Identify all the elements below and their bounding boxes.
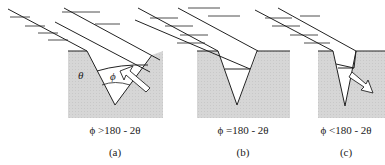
workpiece-b	[197, 51, 290, 118]
condition-b: ϕ =180 - 2θ	[217, 124, 268, 136]
condition-c: ϕ <180 - 2θ	[320, 124, 371, 136]
workpiece-c	[318, 51, 385, 118]
caption-b: (b)	[237, 146, 250, 159]
panel-a: θ ϕ ϕ >180 - 2θ (a)	[8, 8, 163, 159]
condition-a: ϕ >180 - 2θ	[89, 124, 140, 136]
hatch-lines-b	[150, 8, 240, 43]
caption-a: (a)	[109, 146, 122, 159]
cutting-groove-diagram: θ ϕ ϕ >180 - 2θ (a) ϕ =180 - 2θ (b)	[0, 0, 385, 165]
workpiece-a	[68, 51, 163, 118]
phi-label: ϕ	[110, 70, 116, 82]
caption-c: (c)	[340, 146, 353, 159]
hatch-lines-a	[10, 12, 120, 40]
theta-label: θ	[78, 69, 84, 81]
